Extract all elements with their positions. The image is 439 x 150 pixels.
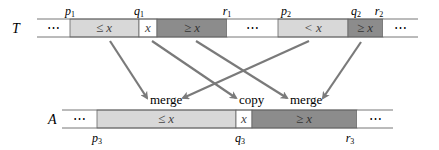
arrow-le-to-merge [110,41,147,98]
svg-text:p1: p1 [64,4,75,19]
index-p2: p [280,4,287,18]
arrow-lt-to-merge [183,41,309,98]
cell-label: x [240,111,247,126]
op-merge-right: merge [290,92,322,107]
op-copy: copy [239,92,265,107]
svg-text:p2: p2 [280,4,291,19]
index-p3: p [91,131,98,145]
cell-label: ≤ x [96,20,112,35]
ellipsis: ⋯ [369,111,382,126]
cell-label: ≥ x [296,111,312,126]
op-merge-left: merge [150,92,182,107]
svg-text:q1: q1 [134,4,144,19]
cell-label: ≥ x [184,20,200,35]
svg-text:q3: q3 [235,131,245,146]
cell-label: < x [304,20,322,35]
top-index-labels: p1 q1 r1 p2 q2 r2 [64,4,383,19]
svg-text:r3: r3 [346,131,355,146]
arrow-ge-to-merge [196,41,287,98]
ellipsis: ⋯ [73,111,86,126]
top-array: T ⋯ ≤ x x ≥ x ⋯ < x ≥ x ⋯ p1 q1 r1 p2 q2… [12,4,418,37]
svg-text:r1: r1 [223,4,232,19]
ellipsis: ⋯ [394,20,407,35]
array-name-T: T [12,21,21,36]
ellipsis: ⋯ [47,20,60,35]
arrows [110,41,361,98]
arrow-x-to-copy [152,41,236,98]
index-p1: p [64,4,71,18]
svg-text:q2: q2 [351,4,361,19]
cell-label: ≥ x [357,20,373,35]
svg-text:p3: p3 [91,131,102,146]
cell-label: x [144,20,151,35]
ellipsis: ⋯ [246,20,259,35]
cell-label: ≤ x [158,111,174,126]
svg-text:r2: r2 [375,4,384,19]
merge-diagram: T ⋯ ≤ x x ≥ x ⋯ < x ≥ x ⋯ p1 q1 r1 p2 q2… [0,0,439,150]
array-name-A: A [47,112,57,127]
bottom-array: A ⋯ ≤ x x ≥ x ⋯ p3 q3 r3 [47,110,393,146]
arrow-ge2-to-merge [323,42,361,98]
bottom-index-labels: p3 q3 r3 [91,131,354,146]
